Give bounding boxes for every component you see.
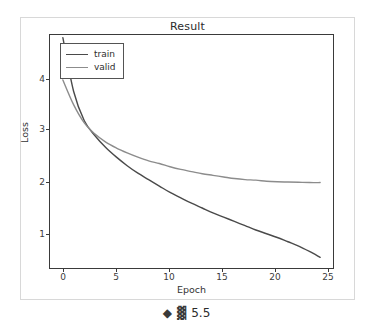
screenshot-root: Result Loss Epoch 4 3 2 1 0 5 10 15 20 2… [0,0,373,336]
x-tick-mark-0 [63,269,64,272]
x-tick-label-20: 20 [263,272,287,282]
x-tick-mark-25 [328,269,329,272]
y-tick-label-2: 2 [23,177,45,187]
y-tick-label-4: 4 [23,74,45,84]
x-tick-label-15: 15 [210,272,234,282]
y-tick-label-3: 3 [23,124,45,134]
series-line-valid [63,80,320,183]
status-value: 5.5 [191,307,210,319]
x-tick-mark-5 [116,269,117,272]
chart-legend: train valid [60,43,124,79]
x-tick-label-25: 25 [316,272,340,282]
legend-item-valid: valid [66,61,116,74]
x-tick-mark-20 [275,269,276,272]
x-tick-label-5: 5 [104,272,128,282]
x-tick-label-0: 0 [51,272,75,282]
diamond-icon: ◆ [163,307,172,319]
plot-area: train valid [49,34,334,269]
matplotlib-figure: Result Loss Epoch 4 3 2 1 0 5 10 15 20 2… [20,17,355,300]
grid-icon: ▓ [177,307,186,319]
x-axis-label: Epoch [49,284,334,295]
legend-item-train: train [66,48,116,61]
legend-swatch-train [66,54,88,55]
legend-swatch-valid [66,67,88,68]
legend-label-train: train [94,48,115,61]
y-tick-label-1: 1 [23,229,45,239]
legend-label-valid: valid [94,61,116,74]
x-tick-mark-15 [222,269,223,272]
status-bar: ◆ ▓ 5.5 [0,307,373,319]
x-tick-mark-10 [169,269,170,272]
chart-title: Result [21,20,354,33]
x-tick-label-10: 10 [157,272,181,282]
